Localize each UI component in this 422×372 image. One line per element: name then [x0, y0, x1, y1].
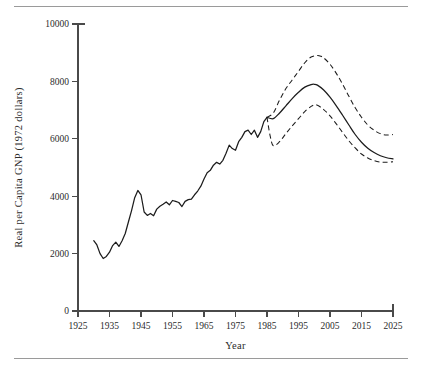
x-tick-label: 1935: [100, 321, 119, 331]
y-axis-title: Real per Capita GNP (1972 dollars): [13, 87, 25, 248]
upper-bound-dashed-line: [267, 56, 393, 136]
figure-container: 0200040006000800010000192519351945195519…: [0, 0, 422, 372]
y-tick-label: 2000: [50, 249, 69, 259]
x-tick-label: 2025: [384, 321, 403, 331]
historical-gnp-line: [94, 117, 267, 258]
x-tick-label: 1975: [226, 321, 245, 331]
lower-bound-dashed-line: [267, 105, 393, 163]
axes-group: [72, 24, 393, 317]
axis-labels-group: 0200040006000800010000192519351945195519…: [13, 19, 403, 351]
x-tick-label: 1925: [69, 321, 88, 331]
y-tick-label: 4000: [50, 192, 69, 202]
x-tick-label: 2015: [352, 321, 371, 331]
series-group: [94, 56, 393, 259]
y-tick-label: 8000: [50, 77, 69, 87]
x-tick-label: 2005: [321, 321, 340, 331]
projected-median-line: [267, 84, 393, 159]
y-tick-label: 10000: [45, 19, 69, 29]
x-tick-label: 1995: [289, 321, 308, 331]
gnp-line-chart: 0200040006000800010000192519351945195519…: [0, 0, 422, 372]
x-tick-label: 1945: [132, 321, 151, 331]
x-tick-label: 1955: [163, 321, 182, 331]
x-tick-label: 1965: [195, 321, 214, 331]
x-axis-title: Year: [225, 340, 246, 351]
y-tick-label: 6000: [50, 134, 69, 144]
x-tick-label: 1985: [258, 321, 277, 331]
y-tick-label: 0: [64, 306, 69, 316]
